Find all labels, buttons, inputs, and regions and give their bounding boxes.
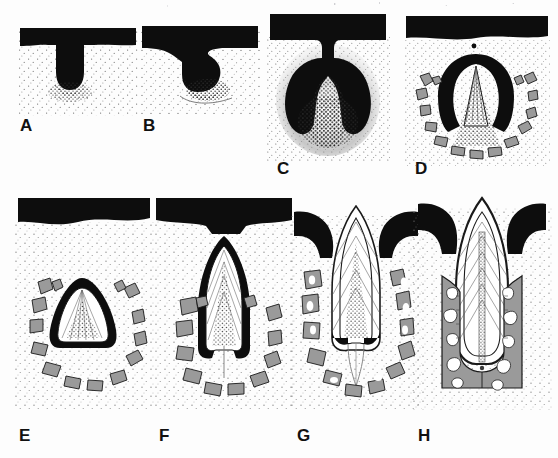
panel-c-bell-stage [266,14,390,162]
panel-label-h: H [418,427,430,444]
panel-d-illustration [404,14,550,166]
pulp-canal [479,232,485,362]
dental-lamina-remnant [472,44,477,49]
panel-label-g: G [297,427,310,444]
panel-label-e: E [19,427,30,444]
oral-epithelium [18,198,150,224]
panel-e-crown-formation [14,196,154,410]
panel-g-illustration [290,196,422,410]
panel-d-appositional-stage [404,14,550,166]
panel-h-functional-tooth [412,192,552,410]
panel-g-eruption [290,196,422,410]
dental-papilla-core [298,96,358,148]
panel-b-cap-stage [140,12,260,116]
panel-a-illustration [18,12,138,116]
panel-f-crown-completion [154,196,294,410]
apical-foramen [480,366,484,370]
panel-b-illustration [140,12,260,116]
panel-label-d: D [415,160,427,177]
panel-a-bud-stage [18,12,138,116]
panel-label-c: C [277,160,289,177]
panel-label-b: B [143,117,155,134]
panel-f-illustration [154,196,294,410]
dental-papilla-core [186,79,230,101]
panel-label-f: F [159,427,169,444]
scan-noise [0,0,558,10]
panel-h-illustration [412,192,552,410]
oral-epithelium [406,16,548,39]
panel-label-a: A [20,117,32,134]
panel-c-illustration [266,14,390,162]
tooth-development-figure: A B [0,0,558,458]
panel-e-illustration [14,196,154,410]
dental-papilla-condensation [48,82,92,102]
